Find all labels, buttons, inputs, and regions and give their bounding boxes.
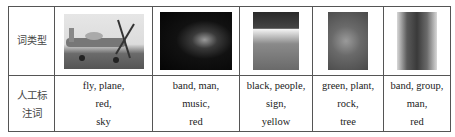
word-line: tree (313, 113, 383, 131)
image-row: 词类型 (9, 7, 451, 76)
word-line: red (153, 113, 239, 131)
word-line: red, (55, 95, 152, 113)
word-line: rock, (313, 95, 383, 113)
word-line: green, plant, (313, 77, 383, 95)
word-line: sky (55, 113, 152, 131)
word-line: band, group, (384, 77, 450, 95)
word-line: red (384, 113, 450, 131)
word-line: sign, (240, 95, 312, 113)
words-cell: band, man, music, red (153, 76, 240, 132)
words-cell: black, people, sign, yellow (240, 76, 313, 132)
row-label-line1: 人工标 (9, 86, 54, 104)
words-cell: fly, plane, red, sky (55, 76, 153, 132)
words-cell: green, plant, rock, tree (313, 76, 384, 132)
word-line: band, man, (153, 77, 239, 95)
image-cell (313, 7, 384, 76)
image-cell (384, 7, 451, 76)
word-line: fly, plane, (55, 77, 152, 95)
row-label-line2: 注词 (9, 104, 54, 122)
airplane-icon (64, 14, 144, 69)
words-cell: band, group, man, red (384, 76, 451, 132)
people-image (397, 12, 437, 70)
image-cell (240, 7, 313, 76)
word-line: man, (384, 95, 450, 113)
band-image (160, 12, 232, 70)
annotation-row: 人工标 注词 fly, plane, red, sky band, man, m… (9, 76, 451, 132)
sign-image (253, 12, 299, 70)
annotation-table: 词类型 (8, 6, 451, 132)
row-label-word-type: 词类型 (9, 7, 55, 76)
image-cell (55, 7, 153, 76)
row-label-manual-annotation: 人工标 注词 (9, 76, 55, 132)
word-line: music, (153, 95, 239, 113)
airplane-image (64, 14, 144, 69)
plant-image (328, 12, 368, 70)
row-label-text: 词类型 (17, 35, 47, 46)
word-line: black, people, (240, 77, 312, 95)
image-cell (153, 7, 240, 76)
word-line: yellow (240, 113, 312, 131)
